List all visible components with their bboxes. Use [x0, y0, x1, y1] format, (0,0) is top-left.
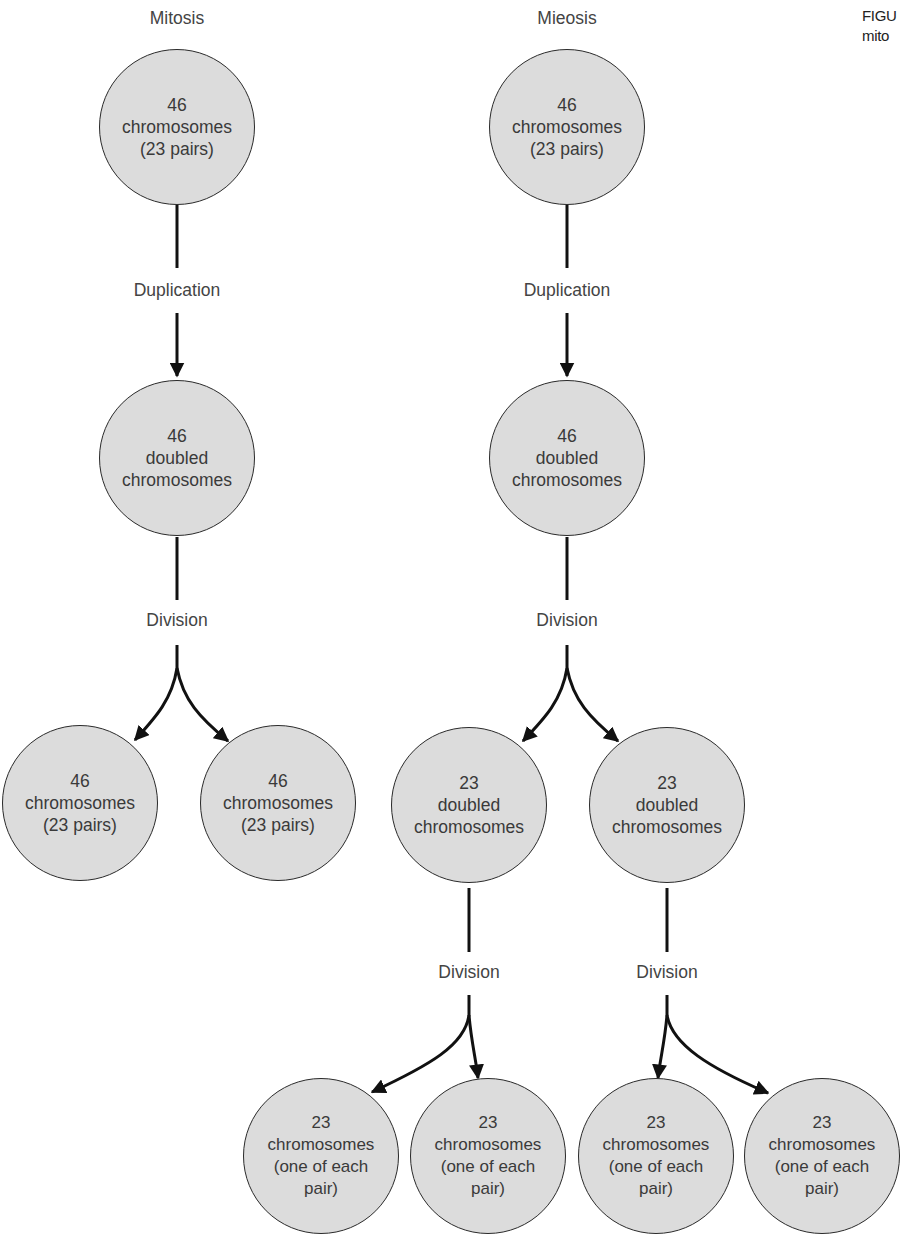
node-text: doubled	[536, 447, 598, 469]
node-count: 23	[479, 1112, 498, 1134]
node-count: 46	[268, 770, 287, 792]
meiosis-division-2-right-label: Division	[636, 962, 697, 983]
node-text: chromosomes	[769, 1134, 876, 1156]
node-text: chromosomes	[603, 1134, 710, 1156]
node-text: (one of each	[609, 1156, 704, 1178]
mitosis-parent-cell: 46 chromosomes (23 pairs)	[99, 49, 255, 205]
mitosis-duplication-label: Duplication	[134, 280, 221, 301]
meiosis-parent-cell: 46 chromosomes (23 pairs)	[489, 49, 645, 205]
caption-line-2: mito	[862, 26, 897, 46]
node-text: (23 pairs)	[241, 814, 315, 836]
node-text: (23 pairs)	[140, 138, 214, 160]
node-count: 46	[557, 425, 576, 447]
node-text: (one of each	[775, 1156, 870, 1178]
mitosis-daughter-cell-2: 46 chromosomes (23 pairs)	[200, 725, 356, 881]
node-count: 46	[70, 770, 89, 792]
node-text: doubled	[636, 794, 698, 816]
mitosis-doubled-cell: 46 doubled chromosomes	[99, 380, 255, 536]
node-text: chromosomes	[435, 1134, 542, 1156]
node-text: chromosomes	[223, 792, 333, 814]
meiosis-gamete-cell-4: 23 chromosomes (one of each pair)	[744, 1078, 900, 1234]
node-count: 23	[312, 1112, 331, 1134]
node-text: chromosomes	[612, 816, 722, 838]
meiosis-first-division-cell-2: 23 doubled chromosomes	[589, 727, 745, 883]
node-text: chromosomes	[414, 816, 524, 838]
node-count: 23	[657, 772, 676, 794]
mitosis-daughter-cell-1: 46 chromosomes (23 pairs)	[2, 725, 158, 881]
node-text: (23 pairs)	[530, 138, 604, 160]
meiosis-division-label: Division	[536, 610, 597, 631]
node-text: chromosomes	[122, 469, 232, 491]
node-text: pair)	[304, 1178, 338, 1200]
node-text: (23 pairs)	[43, 814, 117, 836]
mitosis-division-label: Division	[146, 610, 207, 631]
node-text: (one of each	[274, 1156, 369, 1178]
node-count: 46	[167, 94, 186, 116]
node-text: doubled	[438, 794, 500, 816]
node-count: 23	[813, 1112, 832, 1134]
node-text: chromosomes	[512, 469, 622, 491]
node-text: chromosomes	[122, 116, 232, 138]
node-count: 46	[167, 425, 186, 447]
node-text: pair)	[805, 1178, 839, 1200]
node-count: 23	[459, 772, 478, 794]
node-count: 46	[557, 94, 576, 116]
node-text: doubled	[146, 447, 208, 469]
meiosis-duplication-label: Duplication	[524, 280, 611, 301]
meiosis-gamete-cell-2: 23 chromosomes (one of each pair)	[410, 1078, 566, 1234]
node-text: chromosomes	[268, 1134, 375, 1156]
node-text: pair)	[471, 1178, 505, 1200]
meiosis-first-division-cell-1: 23 doubled chromosomes	[391, 727, 547, 883]
node-text: chromosomes	[512, 116, 622, 138]
node-count: 23	[647, 1112, 666, 1134]
meiosis-title: Mieosis	[537, 8, 596, 29]
node-text: pair)	[639, 1178, 673, 1200]
node-text: chromosomes	[25, 792, 135, 814]
meiosis-division-2-left-label: Division	[438, 962, 499, 983]
mitosis-title: Mitosis	[150, 8, 204, 29]
caption-line-1: FIGU	[862, 6, 897, 26]
meiosis-gamete-cell-1: 23 chromosomes (one of each pair)	[243, 1078, 399, 1234]
meiosis-gamete-cell-3: 23 chromosomes (one of each pair)	[578, 1078, 734, 1234]
meiosis-doubled-cell: 46 doubled chromosomes	[489, 380, 645, 536]
node-text: (one of each	[441, 1156, 536, 1178]
figure-caption: FIGU mito	[862, 6, 897, 46]
